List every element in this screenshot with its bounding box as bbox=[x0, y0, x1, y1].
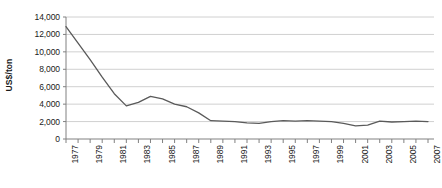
x-axis-tick-label: 2001 bbox=[360, 145, 370, 164]
y-axis-tick-label: 12,000 bbox=[35, 29, 60, 39]
x-axis-tick-label: 1987 bbox=[191, 145, 201, 164]
series-line bbox=[66, 27, 428, 126]
x-axis-tick-label: 1989 bbox=[215, 145, 225, 164]
x-axis-tick-label: 1991 bbox=[239, 145, 249, 164]
y-axis-tick-label: 8,000 bbox=[39, 64, 60, 74]
y-axis-title: US$/ton bbox=[0, 0, 18, 150]
x-axis-tick-label: 1999 bbox=[335, 145, 345, 164]
y-axis-tick-labels: 02,0004,0006,0008,00010,00012,00014,000 bbox=[18, 0, 63, 150]
x-axis-tick-label: 1981 bbox=[118, 145, 128, 164]
x-axis-tick-label: 1979 bbox=[94, 145, 104, 164]
x-axis-tick-label: 2005 bbox=[408, 145, 418, 164]
x-axis-tick-label: 1977 bbox=[70, 145, 80, 164]
axis-ticks bbox=[63, 17, 428, 143]
y-axis-tick-label: 2,000 bbox=[39, 117, 60, 127]
y-axis-tick-label: 14,000 bbox=[35, 12, 60, 22]
x-axis-tick-label: 2003 bbox=[384, 145, 394, 164]
x-axis-tick-label: 1985 bbox=[167, 145, 177, 164]
plot-svg bbox=[66, 17, 428, 139]
axis-lines bbox=[66, 17, 434, 139]
gridlines bbox=[66, 17, 434, 122]
x-axis-tick-label: 2007 bbox=[432, 145, 442, 164]
plot-area bbox=[66, 17, 428, 139]
x-axis-tick-label: 1997 bbox=[311, 145, 321, 164]
y-axis-tick-label: 6,000 bbox=[39, 82, 60, 92]
x-axis-tick-label: 1995 bbox=[287, 145, 297, 164]
x-axis-tick-label: 1993 bbox=[263, 145, 273, 164]
y-axis-tick-label: 4,000 bbox=[39, 99, 60, 109]
y-axis-tick-label: 10,000 bbox=[35, 47, 60, 57]
y-axis-title-label: US$/ton bbox=[4, 59, 14, 92]
x-axis-tick-labels: 1977197919811983198519871989199119931995… bbox=[66, 145, 434, 188]
x-axis-tick-label: 1983 bbox=[142, 145, 152, 164]
y-axis-tick-label: 0 bbox=[55, 134, 60, 144]
data-series bbox=[66, 27, 428, 126]
